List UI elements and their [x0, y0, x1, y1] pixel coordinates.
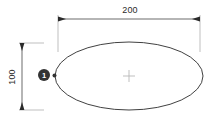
- callout-marker-1[interactable]: 1: [38, 69, 57, 81]
- ellipse-shape-group: [55, 42, 203, 110]
- horizontal-dimension-label: 200: [122, 5, 138, 15]
- center-mark-icon: [123, 70, 135, 82]
- technical-drawing-canvas: 200 100 1: [0, 0, 215, 125]
- horizontal-dimension-group: 200: [58, 5, 200, 52]
- drawing-svg: 200 100 1: [0, 0, 215, 125]
- vertical-dimension-label: 100: [7, 69, 17, 85]
- callout-label: 1: [42, 71, 46, 80]
- callout-vertex-point-icon: [53, 74, 57, 78]
